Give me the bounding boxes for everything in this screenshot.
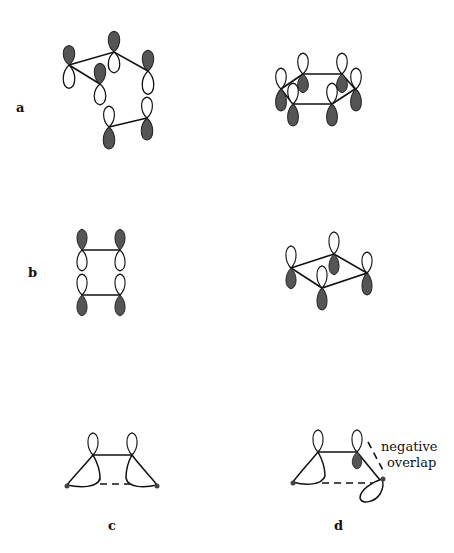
- p-orbital: [142, 50, 153, 94]
- p-orbital: [276, 68, 287, 111]
- p-orbital: [313, 430, 323, 452]
- p-orbital: [88, 433, 98, 455]
- p-orbital: [127, 433, 137, 455]
- p-orbital: [103, 106, 114, 149]
- hybrid-lobe: [67, 455, 100, 487]
- annotation-negative: negative: [381, 439, 438, 454]
- panel-b-left: b: [28, 229, 125, 316]
- p-orbital: [317, 266, 327, 310]
- label-a: a: [16, 100, 25, 115]
- p-orbital: [108, 31, 119, 73]
- p-orbital: [298, 53, 309, 93]
- label-d: d: [334, 518, 343, 533]
- orbital-diagram-figure: a b: [0, 0, 454, 553]
- figure-canvas: a b: [0, 0, 454, 553]
- panel-d: negative overlap d: [291, 430, 438, 533]
- p-orbital: [351, 68, 362, 111]
- small-lobe: [291, 481, 296, 486]
- panel-b-right: [286, 232, 372, 310]
- p-orbital: [329, 232, 339, 275]
- panel-a-right: [276, 53, 362, 126]
- hybrid-lobe: [126, 455, 157, 487]
- small-lobe: [65, 484, 70, 489]
- label-b: b: [28, 265, 37, 280]
- p-orbital: [337, 53, 348, 93]
- panel-a-left: a: [16, 31, 154, 149]
- small-lobe: [155, 484, 160, 489]
- small-lobe: [381, 477, 386, 482]
- p-orbital: [94, 63, 105, 105]
- panel-c: c: [65, 433, 160, 533]
- annotation-overlap: overlap: [387, 455, 436, 470]
- p-orbital: [352, 430, 362, 469]
- hybrid-lobe: [293, 452, 325, 484]
- label-c: c: [108, 518, 116, 533]
